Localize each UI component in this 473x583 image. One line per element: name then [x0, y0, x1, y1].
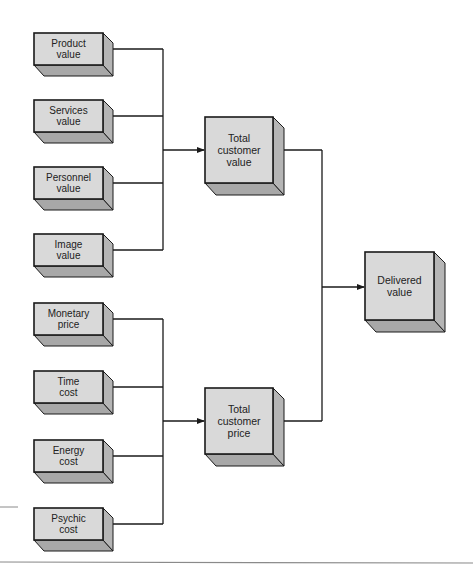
image-value-box	[34, 234, 113, 277]
bottom-page-rule	[0, 562, 473, 563]
psychic-cost-box	[34, 508, 113, 551]
boxes-layer	[34, 33, 445, 551]
total-customer-value-box	[205, 117, 284, 195]
product-value-box	[34, 33, 113, 76]
total-customer-price-box	[205, 388, 284, 466]
delivered-value-box	[365, 252, 445, 332]
personnel-value-box	[34, 167, 113, 210]
energy-cost-box	[34, 440, 113, 483]
time-cost-box	[34, 371, 113, 414]
services-value-box	[34, 100, 113, 143]
monetary-price-box	[34, 303, 113, 346]
customer-delivered-value-diagram	[0, 0, 473, 583]
